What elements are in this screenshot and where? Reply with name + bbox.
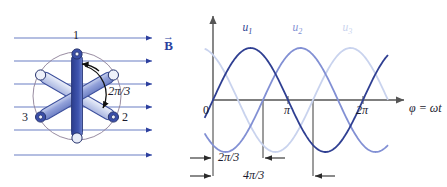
terminal-label-3: 3 — [22, 110, 28, 125]
terminal-node-1b — [72, 133, 82, 143]
angle-arc-upper — [82, 64, 99, 71]
magnetic-field-label-text: B — [164, 38, 173, 53]
x-tick-label-0: 0 — [203, 103, 209, 118]
terminal-node-3b — [108, 70, 118, 80]
dimension-label-2pi-3: 2π/3 — [218, 150, 239, 165]
terminal-label-2: 2 — [122, 110, 128, 125]
dimension-label-4pi-3: 4π/3 — [243, 168, 264, 183]
terminal-node-3-core — [39, 115, 43, 119]
angle-label-2pi-3: 2π/3 — [108, 84, 130, 99]
x-tick-label-2pi: 2π — [356, 103, 368, 118]
x-tick-label-pi: π — [284, 103, 290, 118]
terminal-node-1-core — [75, 52, 79, 56]
terminal-label-1: 1 — [73, 28, 79, 43]
coil-bar-1 — [72, 54, 83, 138]
x-axis-label: φ = ωt — [409, 101, 442, 116]
curve-label-u3: u3 — [343, 21, 353, 36]
magnetic-field-label: → B — [163, 34, 174, 54]
curve-label-u1: u1 — [243, 21, 253, 36]
curve-label-u2: u2 — [293, 21, 303, 36]
terminal-node-2b — [36, 70, 46, 80]
terminal-node-2-core — [111, 115, 115, 119]
